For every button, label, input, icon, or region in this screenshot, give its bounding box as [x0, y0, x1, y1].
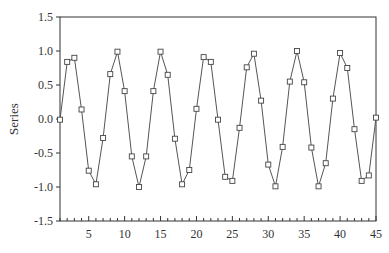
x-tick-label: 15: [155, 227, 167, 241]
x-tick-label: 30: [262, 227, 274, 241]
y-axis: -1.5-1.0-0.50.00.51.01.5: [34, 10, 60, 228]
data-point-marker: [323, 161, 328, 166]
data-point-marker: [165, 72, 170, 77]
y-tick-label: -1.0: [34, 180, 53, 194]
line-chart: -1.5-1.0-0.50.00.51.01.5 510152025303540…: [0, 0, 389, 253]
data-point-marker: [194, 106, 199, 111]
x-tick-label: 40: [334, 227, 346, 241]
data-point-marker: [108, 72, 113, 77]
data-point-marker: [223, 174, 228, 179]
x-tick-label: 20: [190, 227, 202, 241]
x-tick-label: 10: [119, 227, 131, 241]
data-point-marker: [366, 173, 371, 178]
data-point-marker: [129, 154, 134, 159]
data-point-marker: [259, 98, 264, 103]
x-axis: 51015202530354045: [60, 216, 382, 241]
y-tick-label: 0.0: [38, 112, 53, 126]
data-point-marker: [280, 144, 285, 149]
data-point-marker: [352, 127, 357, 132]
y-tick-label: 1.5: [38, 10, 53, 24]
data-point-marker: [144, 154, 149, 159]
y-tick-label: 0.5: [38, 78, 53, 92]
x-tick-label: 25: [226, 227, 238, 241]
x-tick-label: 35: [298, 227, 310, 241]
y-tick-label: -1.5: [34, 214, 53, 228]
y-tick-label: 1.0: [38, 44, 53, 58]
data-point-marker: [180, 182, 185, 187]
chart-canvas: -1.5-1.0-0.50.00.51.01.5 510152025303540…: [0, 0, 389, 253]
data-point-marker: [58, 117, 63, 122]
data-point-marker: [187, 168, 192, 173]
data-point-marker: [251, 51, 256, 56]
data-point-marker: [137, 185, 142, 190]
data-point-marker: [172, 136, 177, 141]
data-point-marker: [244, 65, 249, 70]
data-point-marker: [374, 115, 379, 120]
data-point-marker: [338, 51, 343, 56]
data-point-marker: [273, 184, 278, 189]
data-point-marker: [295, 49, 300, 54]
data-point-marker: [345, 66, 350, 71]
data-point-marker: [86, 168, 91, 173]
data-point-marker: [230, 178, 235, 183]
data-point-marker: [65, 59, 70, 64]
y-axis-label: Series: [6, 103, 21, 135]
y-tick-label: -0.5: [34, 146, 53, 160]
data-point-marker: [201, 55, 206, 60]
data-point-marker: [330, 96, 335, 101]
data-point-marker: [266, 162, 271, 167]
data-point-marker: [359, 178, 364, 183]
data-point-marker: [158, 49, 163, 54]
data-series: [58, 49, 379, 190]
data-point-marker: [237, 125, 242, 130]
data-point-marker: [216, 117, 221, 122]
x-tick-label: 45: [370, 227, 382, 241]
data-point-marker: [79, 107, 84, 112]
data-point-marker: [101, 136, 106, 141]
data-point-marker: [72, 55, 77, 60]
data-point-marker: [309, 145, 314, 150]
data-point-marker: [93, 182, 98, 187]
data-point-marker: [122, 89, 127, 94]
data-point-marker: [302, 80, 307, 85]
data-point-marker: [316, 184, 321, 189]
data-point-marker: [208, 59, 213, 64]
data-point-marker: [115, 49, 120, 54]
data-point-marker: [287, 79, 292, 84]
data-point-marker: [151, 89, 156, 94]
x-tick-label: 5: [86, 227, 92, 241]
